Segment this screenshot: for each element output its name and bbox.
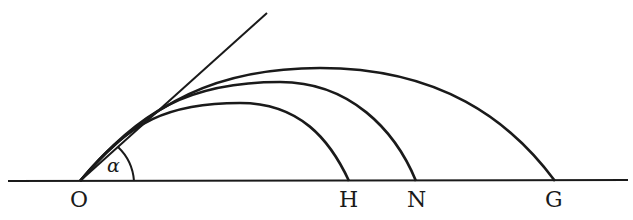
point-label-g: G — [545, 187, 563, 212]
ground-line — [8, 180, 628, 181]
point-label-h: H — [339, 187, 358, 212]
point-label-n: N — [407, 187, 426, 212]
trajectory-to-H — [80, 103, 349, 181]
angle-label: α — [107, 154, 120, 176]
trajectory-to-G — [80, 68, 555, 181]
point-label-o: O — [70, 187, 88, 212]
angle-arc — [118, 147, 134, 181]
projectile-diagram: α O H N G — [0, 0, 633, 220]
